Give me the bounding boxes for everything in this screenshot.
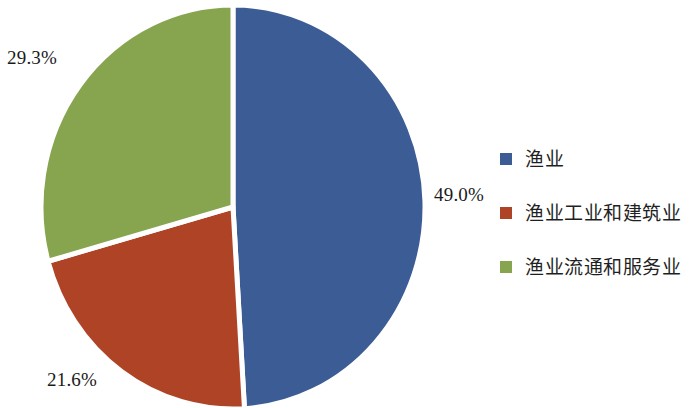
legend-swatch-icon [500, 261, 512, 273]
data-label-fishery-industry-construction: 21.6% [47, 370, 97, 389]
chart-legend: 渔业 渔业工业和建筑业 渔业流通和服务业 [500, 150, 690, 276]
legend-item-fishery-industry-construction[interactable]: 渔业工业和建筑业 [500, 204, 690, 222]
pie-slices [41, 5, 425, 408]
legend-item-label: 渔业 [525, 150, 564, 169]
pie-plot-area: 29.3% 49.0% 21.6% [0, 0, 470, 408]
legend-item-label: 渔业流通和服务业 [525, 258, 681, 277]
legend-item-label: 渔业工业和建筑业 [525, 204, 681, 223]
pie-svg [0, 0, 470, 408]
data-label-fishery-circulation-services: 29.3% [7, 48, 57, 67]
pie-slice-fishery[interactable] [233, 5, 425, 408]
legend-swatch-icon [500, 153, 512, 165]
legend-swatch-icon [500, 207, 512, 219]
legend-item-fishery[interactable]: 渔业 [500, 150, 690, 168]
data-label-fishery: 49.0% [434, 185, 484, 204]
legend-item-fishery-circulation-services[interactable]: 渔业流通和服务业 [500, 258, 690, 276]
pie-chart-figure: 29.3% 49.0% 21.6% 渔业 渔业工业和建筑业 渔业流通和服务业 [0, 0, 690, 408]
